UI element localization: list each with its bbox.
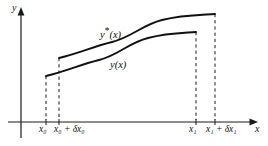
curve-y-star <box>59 14 215 58</box>
y-axis-label: y <box>12 3 16 13</box>
figure-container: y x y*(x) y(x) x₀ x₀ + δx₀ x₁ x₁ + δx₁ <box>0 0 268 146</box>
dashed-verticals-group <box>46 14 215 120</box>
x-axis-label: x <box>255 124 259 134</box>
curve-label-y: y(x) <box>110 60 126 71</box>
curves-group <box>46 14 215 76</box>
tick-label-x0: x₀ <box>39 125 47 135</box>
tick-label-x1: x₁ <box>189 125 197 135</box>
tick-label-x1-plus-dx1: x₁ + δx₁ <box>206 125 237 135</box>
curve-label-y-arg: (x) <box>115 59 127 70</box>
y-axis-arrowhead <box>18 7 25 16</box>
curve-label-y-star: y*(x) <box>100 27 121 40</box>
curve-label-y-star-arg: (x) <box>109 29 121 40</box>
axes-group <box>8 7 258 138</box>
tick-label-x0-plus-dx0: x₀ + δx₀ <box>54 125 85 135</box>
